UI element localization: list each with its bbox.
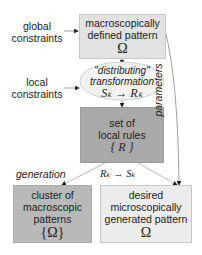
omega-set-symbol: {Ω} [41,225,65,240]
desired-line1: desired [129,189,163,201]
local-constraints-line1: local [8,76,66,88]
local-rules-line1: set of [109,117,135,129]
parameters-label: parameters [152,50,164,130]
desired-line2: microscopically [110,201,181,213]
cluster-line2: macroscopic [23,201,82,213]
global-constraints-line2: constraints [8,32,66,44]
cluster-line1: cluster of [31,189,74,201]
desired-pattern-box: desired microscopically generated patter… [100,185,192,243]
global-constraints-label: global constraints [8,20,66,44]
arrow-rules-to-desired [138,163,177,185]
rules-set-symbol: { R } [111,141,134,154]
desired-line3: generated pattern [105,213,188,225]
omega-symbol-desired: Ω [141,225,151,240]
arrow-parameters [165,30,179,185]
generation-label: generation [16,168,66,180]
macro-pattern-line2: defined pattern [87,29,157,41]
local-constraints-line2: constraints [8,88,66,100]
cluster-box: cluster of macroscopic patterns {Ω} [13,185,92,243]
macro-pattern-line1: macroscopically [85,17,160,29]
local-rules-line2: local rules [98,129,145,141]
arrow-rules-to-cluster [62,163,105,185]
local-constraints-label: local constraints [8,76,66,100]
global-constraints-line1: global [8,20,66,32]
omega-symbol: Ω [117,41,127,56]
inverse-formula-label: Rₖ → Sₖ [100,168,135,180]
cluster-line3: patterns [34,213,72,225]
